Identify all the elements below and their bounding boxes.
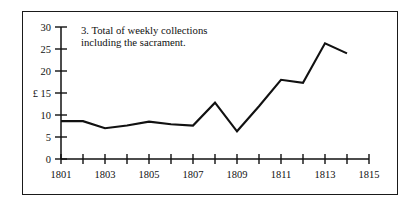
- line-chart: 30 25 20 £ 15 10 5 0: [23, 12, 397, 194]
- x-tick-label-1811: 1811: [271, 169, 292, 180]
- x-tick-label-1801: 1801: [51, 169, 72, 180]
- y-tick-label-15: £ 15: [33, 88, 51, 99]
- y-tick-label-25: 25: [41, 44, 52, 55]
- x-tick-label-1803: 1803: [95, 169, 116, 180]
- y-tick-label-30: 30: [41, 22, 52, 33]
- chart-frame: 30 25 20 £ 15 10 5 0: [22, 11, 398, 195]
- figure-container: 30 25 20 £ 15 10 5 0: [0, 0, 418, 211]
- y-tick-label-5: 5: [46, 132, 51, 143]
- y-tick-label-0: 0: [46, 154, 51, 165]
- x-tick-label-1805: 1805: [139, 169, 160, 180]
- x-tick-label-1813: 1813: [315, 169, 336, 180]
- x-tick-label-1809: 1809: [227, 169, 248, 180]
- data-series-line: [61, 43, 347, 131]
- x-tick-label-1807: 1807: [183, 169, 204, 180]
- chart-title-line-1: 3. Total of weekly collections: [81, 24, 207, 36]
- chart-title-line-2: including the sacrament.: [81, 36, 186, 48]
- y-tick-label-20: 20: [41, 66, 52, 77]
- x-tick-label-1815: 1815: [359, 169, 380, 180]
- y-tick-label-10: 10: [41, 110, 52, 121]
